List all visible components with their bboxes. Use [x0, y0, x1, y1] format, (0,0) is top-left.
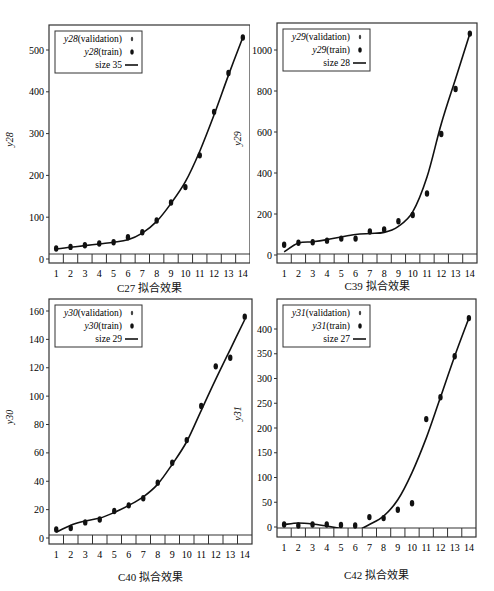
- fit-line: [284, 318, 469, 531]
- train-point: [396, 506, 400, 512]
- legend-label: y31(train): [312, 321, 350, 332]
- x-tick-label: 14: [464, 542, 474, 553]
- legend-train-marker: [358, 323, 362, 329]
- train-point: [339, 522, 343, 528]
- x-tick-label: 5: [338, 542, 343, 553]
- legend-label: size 27: [323, 334, 350, 344]
- x-tick-label: 9: [395, 542, 400, 553]
- y-tick-label: 350: [257, 348, 272, 359]
- legend-label: y31(validation): [291, 308, 350, 319]
- x-tick-label: 4: [324, 542, 329, 553]
- train-point: [410, 500, 414, 506]
- x-tick-label: 6: [353, 542, 358, 553]
- y-tick-label: 100: [257, 472, 272, 483]
- x-tick-label: 11: [421, 542, 431, 553]
- chart-c42-caption: C42 拟合效果: [277, 566, 476, 582]
- train-point: [424, 416, 428, 422]
- x-tick-label: 3: [310, 542, 315, 553]
- chart-c42-plot: 1234567891011121314050100150200250300350…: [0, 0, 494, 591]
- x-tick-label: 8: [381, 542, 386, 553]
- train-point: [353, 522, 357, 528]
- x-tick-label: 7: [367, 542, 372, 553]
- y-axis-label: y31: [232, 406, 243, 421]
- y-tick-label: 150: [257, 447, 272, 458]
- train-point: [367, 514, 371, 520]
- y-tick-label: 0: [267, 522, 272, 533]
- x-tick-label: 2: [296, 542, 301, 553]
- x-tick-label: 12: [435, 542, 445, 553]
- y-tick-label: 250: [257, 398, 272, 409]
- x-tick-label: 13: [450, 542, 460, 553]
- chart-c42: 1234567891011121314050100150200250300350…: [0, 0, 494, 591]
- legend-validation-marker: [359, 311, 361, 315]
- x-tick-label: 1: [282, 542, 287, 553]
- x-tick-label: 10: [407, 542, 417, 553]
- y-tick-label: 300: [257, 373, 272, 384]
- y-tick-label: 400: [257, 324, 272, 335]
- y-tick-label: 50: [262, 497, 272, 508]
- y-tick-label: 200: [257, 423, 272, 434]
